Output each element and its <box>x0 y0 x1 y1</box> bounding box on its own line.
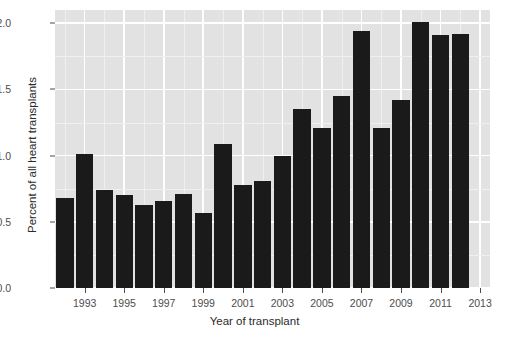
x-axis-tick-label: 1999 <box>192 297 215 309</box>
x-axis-tick-mark <box>480 288 481 293</box>
bar <box>254 181 271 288</box>
bar <box>234 185 251 288</box>
y-axis-tick-mark <box>50 288 55 289</box>
x-axis-tick-mark <box>322 288 323 293</box>
y-axis-tick-label: 2.0 <box>0 17 11 29</box>
x-axis-tick-label: 2011 <box>429 297 452 309</box>
y-axis-tick-label: 1.0 <box>0 150 11 162</box>
bar-chart: Percent of all heart transplants Year of… <box>0 0 509 341</box>
x-axis-tick-mark <box>85 288 86 293</box>
y-axis-tick-label: 1.5 <box>0 83 11 95</box>
x-axis-tick-label: 1997 <box>152 297 175 309</box>
bar <box>452 34 469 288</box>
y-axis-tick-label: 0.0 <box>0 282 11 294</box>
bar <box>392 100 409 288</box>
bar <box>135 205 152 288</box>
x-axis-tick-mark <box>124 288 125 293</box>
x-axis-tick-label: 2005 <box>310 297 333 309</box>
x-axis-tick-mark <box>164 288 165 293</box>
y-axis-tick-mark <box>50 221 55 222</box>
x-axis-tick-label: 2001 <box>231 297 254 309</box>
x-axis-title: Year of transplant <box>0 315 509 327</box>
bar <box>76 154 93 288</box>
bar <box>353 31 370 288</box>
x-axis-tick-mark <box>361 288 362 293</box>
x-axis-tick-mark <box>282 288 283 293</box>
y-axis-tick-mark <box>50 89 55 90</box>
x-axis-tick-mark <box>203 288 204 293</box>
gridline-major-vertical <box>479 10 481 288</box>
y-axis-title: Percent of all heart transplants <box>26 35 38 275</box>
bar <box>412 22 429 288</box>
bar <box>313 128 330 288</box>
bar <box>432 35 449 288</box>
x-axis-tick-label: 1995 <box>113 297 136 309</box>
x-axis-tick-label: 2013 <box>468 297 491 309</box>
bar <box>56 198 73 288</box>
x-axis-tick-label: 2003 <box>271 297 294 309</box>
bar <box>373 128 390 288</box>
bar <box>155 201 172 288</box>
x-axis-tick-label: 2009 <box>389 297 412 309</box>
y-axis-tick-mark <box>50 23 55 24</box>
x-axis-tick-mark <box>243 288 244 293</box>
x-axis-tick-mark <box>401 288 402 293</box>
y-axis-tick-mark <box>50 155 55 156</box>
bar <box>96 190 113 288</box>
bar <box>175 194 192 288</box>
x-axis-tick-label: 1993 <box>73 297 96 309</box>
bar <box>214 144 231 288</box>
x-axis-tick-mark <box>441 288 442 293</box>
bar <box>333 96 350 288</box>
bar <box>195 213 212 288</box>
bar <box>293 109 310 288</box>
x-axis-tick-label: 2007 <box>350 297 373 309</box>
plot-panel <box>55 10 490 288</box>
bar <box>116 195 133 288</box>
bar <box>274 156 291 288</box>
y-axis-tick-label: 0.5 <box>0 216 11 228</box>
